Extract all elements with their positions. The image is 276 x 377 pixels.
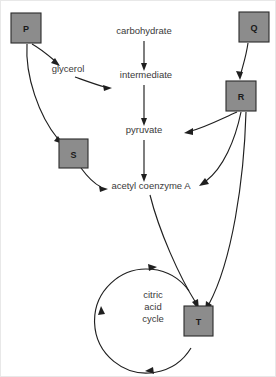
box-node-t[interactable]: T <box>184 306 213 336</box>
arrow-carbohydrate-to-intermediate <box>141 41 147 71</box>
arrow-r-to-t <box>205 112 246 311</box>
box-label-p: P <box>23 24 29 34</box>
box-node-s[interactable]: S <box>59 139 88 168</box>
box-label-t: T <box>196 317 202 327</box>
arrow-glycerol-to-intermediate <box>75 77 112 91</box>
box-label-s: S <box>70 150 76 160</box>
arrow-q-to-r <box>236 43 248 80</box>
metabolic-pathway-diagram: carbohydrate glycerol intermediate pyruv… <box>1 1 276 377</box>
arrow-intermediate-to-pyruvate <box>141 85 147 126</box>
metabolite-label-glycerol: glycerol <box>52 63 85 74</box>
cycle-label-line-3: cycle <box>142 313 164 324</box>
box-label-q: Q <box>250 23 257 33</box>
box-node-q[interactable]: Q <box>239 12 269 42</box>
box-node-p[interactable]: P <box>11 13 41 43</box>
arrow-r-to-pyruvate <box>184 112 237 135</box>
arrow-p-to-s <box>27 44 63 144</box>
metabolite-label-pyruvate: pyruvate <box>126 124 162 135</box>
cycle-label-line-1: citric <box>143 289 163 300</box>
arrow-r-to-acetyl-coenzyme-a <box>199 112 241 186</box>
metabolite-label-acetyl-coenzyme-a: acetyl coenzyme A <box>111 180 191 191</box>
diagram-canvas: carbohydrate glycerol intermediate pyruv… <box>0 0 276 377</box>
box-label-r: R <box>238 92 245 102</box>
arrow-pyruvate-to-acetyl-coenzyme-a <box>141 140 147 182</box>
metabolite-label-intermediate: intermediate <box>120 69 172 80</box>
cycle-label-line-2: acid <box>144 301 161 312</box>
box-node-r[interactable]: R <box>226 81 256 111</box>
arrow-s-to-acetyl-coenzyme-a <box>81 168 108 192</box>
metabolite-label-carbohydrate: carbohydrate <box>116 25 171 36</box>
